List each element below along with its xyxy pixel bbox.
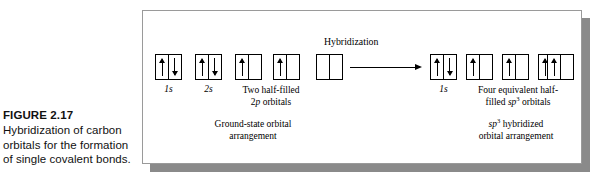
electron-arrow-up-icon	[437, 59, 438, 76]
orbital-label-2p-line-1: Two half-filled	[221, 84, 321, 96]
electron-arrow-up-icon	[162, 59, 163, 76]
electron-arrow-up-icon	[242, 59, 243, 76]
figure-caption-line-2: orbitals for the formation	[3, 138, 137, 153]
figure-caption-line-1: Hybridization of carbon	[3, 123, 137, 138]
ground-state-caption: Ground-state orbital arrangement	[183, 118, 323, 142]
orbital-cell-right	[444, 55, 457, 79]
orbital-box-2p-empty	[316, 54, 343, 80]
orbital-cell-left	[431, 55, 444, 79]
sp3-orbital-label-block: Four equivalent half- filled sp3 orbital…	[459, 84, 577, 108]
orbital-label-1s-left: 1s	[155, 84, 182, 96]
orbital-diagram-panel: 1s 2s Two half-filled 2p orbitals Ground…	[142, 10, 582, 164]
orbital-cell-left	[467, 55, 480, 79]
orbital-cell-right	[249, 55, 262, 79]
orbital-cell-left	[503, 55, 516, 79]
hybridization-label: Hybridization	[324, 36, 378, 47]
orbital-cell-right	[330, 55, 343, 79]
orbital-box-sp3-4	[547, 54, 574, 80]
orbital-cell-right	[516, 55, 529, 79]
electron-arrow-down-icon	[449, 58, 450, 75]
electron-arrow-up-icon	[202, 59, 203, 76]
orbital-box-1s-left	[155, 54, 182, 80]
electron-arrow-up-icon	[554, 59, 555, 76]
ground-state-caption-line-1: Ground-state orbital	[183, 118, 323, 130]
orbital-box-sp3-2	[502, 54, 529, 80]
orbital-cell-left	[196, 55, 209, 79]
ground-state-caption-line-2: arrangement	[183, 130, 323, 142]
figure-number: FIGURE 2.17	[3, 108, 137, 122]
orbital-cell-left	[236, 55, 249, 79]
orbital-box-sp3-1	[466, 54, 493, 80]
electron-arrow-down-icon	[214, 58, 215, 75]
hybridization-right-arrow-icon	[350, 64, 422, 71]
electron-arrow-down-icon	[174, 58, 175, 75]
figure-caption: FIGURE 2.17 Hybridization of carbon orbi…	[3, 108, 137, 167]
orbital-box-2p-2	[273, 54, 300, 80]
orbital-label-2p-block: Two half-filled 2p orbitals	[221, 84, 321, 108]
orbital-cell-right	[287, 55, 300, 79]
orbital-cell-right	[561, 55, 574, 79]
sp3-state-caption-line-2: orbital arrangement	[453, 130, 579, 142]
electron-arrow-up-icon	[545, 59, 546, 76]
orbital-label-2s: 2s	[195, 84, 222, 96]
electron-arrow-up-icon	[473, 59, 474, 76]
sp3-state-caption-line-1: sp3 hybridized	[453, 118, 579, 130]
sp3-state-caption: sp3 hybridized orbital arrangement	[453, 118, 579, 142]
orbital-diagram: 1s 2s Two half-filled 2p orbitals Ground…	[143, 11, 581, 163]
orbital-cell-left	[156, 55, 169, 79]
electron-arrow-up-icon	[280, 59, 281, 76]
sp3-orbital-label-line-2: filled sp3 orbitals	[459, 96, 577, 108]
orbital-cell-left	[317, 55, 330, 79]
orbital-box-1s-right	[430, 54, 457, 80]
orbital-label-2p-line-2: 2p orbitals	[221, 96, 321, 108]
figure-caption-line-3: of single covalent bonds.	[3, 152, 137, 167]
orbital-label-1s-right: 1s	[430, 84, 457, 96]
electron-arrow-up-icon	[509, 59, 510, 76]
orbital-box-2p-1	[235, 54, 262, 80]
orbital-cell-left	[548, 55, 561, 79]
orbital-cell-right	[480, 55, 493, 79]
orbital-cell-right	[169, 55, 182, 79]
orbital-cell-left	[274, 55, 287, 79]
orbital-cell-right	[209, 55, 222, 79]
orbital-box-2s	[195, 54, 222, 80]
